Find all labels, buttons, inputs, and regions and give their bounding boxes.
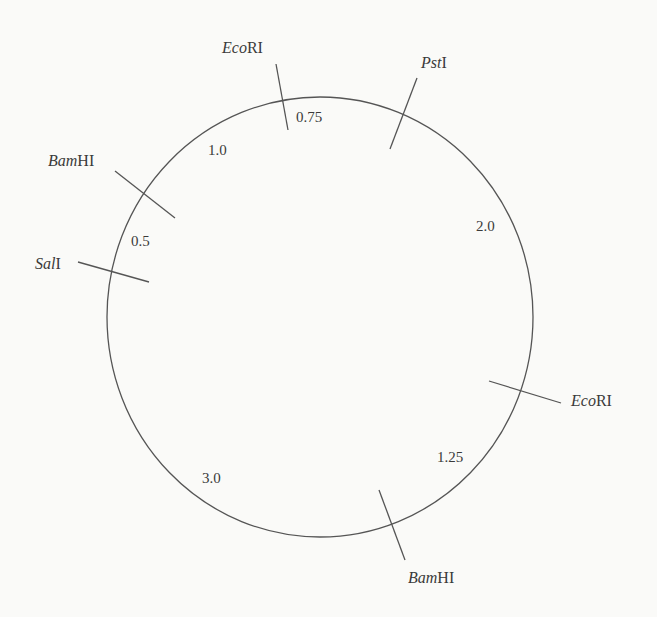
site-tick-bamhi-left: [115, 171, 175, 218]
site-label-bamhi-left: BamHI: [48, 152, 94, 170]
enzyme-roman: I: [55, 255, 60, 272]
site-tick-psti: [390, 78, 417, 149]
fragment-length-3-0: 3.0: [202, 470, 221, 487]
site-label-sali: SalI: [35, 255, 61, 273]
plasmid-circle: [107, 97, 533, 537]
enzyme-roman: HI: [77, 152, 94, 169]
enzyme-italic: Pst: [421, 54, 441, 71]
fragment-length-0-5: 0.5: [131, 233, 150, 250]
site-label-ecori-top: EcoRI: [222, 39, 263, 57]
fragment-length-2-0: 2.0: [476, 218, 495, 235]
enzyme-italic: Sal: [35, 255, 55, 272]
enzyme-roman: HI: [437, 569, 454, 586]
enzyme-roman: RI: [596, 392, 612, 409]
enzyme-italic: Bam: [48, 152, 77, 169]
enzyme-italic: Eco: [571, 392, 596, 409]
fragment-length-0-75: 0.75: [296, 109, 322, 126]
site-tick-ecori-right: [489, 381, 561, 403]
site-label-ecori-right: EcoRI: [571, 392, 612, 410]
enzyme-italic: Bam: [408, 569, 437, 586]
site-tick-ecori-top: [276, 64, 288, 130]
site-label-psti: PstI: [421, 54, 447, 72]
site-label-bamhi-bottom: BamHI: [408, 569, 454, 587]
plasmid-map-graphic: [0, 0, 657, 617]
enzyme-roman: I: [441, 54, 446, 71]
site-tick-bamhi-bottom: [379, 490, 405, 560]
fragment-length-1-25: 1.25: [437, 449, 463, 466]
enzyme-italic: Eco: [222, 39, 247, 56]
enzyme-roman: RI: [247, 39, 263, 56]
fragment-length-1-0: 1.0: [208, 142, 227, 159]
